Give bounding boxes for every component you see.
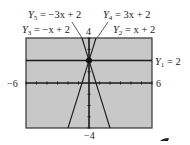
xmin-label: −6 <box>7 78 18 89</box>
ymax-label: 4 <box>86 26 91 37</box>
label-y1: Y1 = 2 <box>155 56 181 69</box>
corner-mark <box>160 138 169 141</box>
graphing-calculator-figure: Y5 = −3x + 2 Y3 = −x + 2 Y4 = 3x + 2 Y2 … <box>0 0 190 145</box>
plot-svg: Y5 = −3x + 2 Y3 = −x + 2 Y4 = 3x + 2 Y2 … <box>0 0 190 145</box>
intersection-point <box>86 58 92 64</box>
ymin-label: −4 <box>84 130 95 141</box>
y4-leader-line <box>97 22 108 38</box>
label-y3: Y3 = −x + 2 <box>22 24 70 37</box>
label-y5: Y5 = −3x + 2 <box>28 9 81 22</box>
y5-leader-line <box>72 22 82 38</box>
label-y4: Y4 = 3x + 2 <box>103 9 150 22</box>
label-y2: Y2 = x + 2 <box>113 24 155 37</box>
xmax-label: 6 <box>156 78 161 89</box>
